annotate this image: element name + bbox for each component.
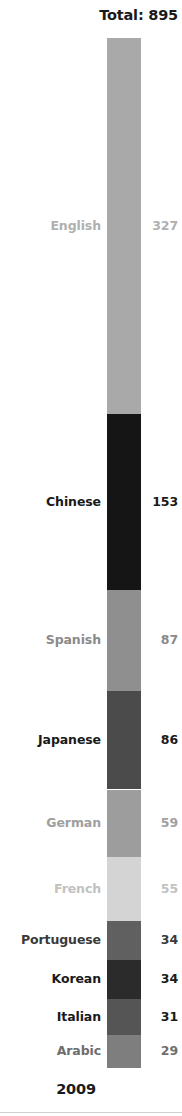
bar-segment	[107, 691, 141, 790]
chart-year-label: 2009	[0, 1081, 152, 1097]
segment-label: Spanish	[0, 634, 101, 647]
segment-value: 153	[145, 496, 178, 509]
bar-stack	[107, 38, 141, 1068]
bar-segment	[107, 414, 141, 590]
bar-segment	[107, 960, 141, 999]
chart-total-label: Total: 895	[0, 7, 178, 23]
segment-label: Portuguese	[0, 934, 101, 947]
segment-value: 29	[145, 1045, 178, 1058]
segment-value: 31	[145, 1011, 178, 1024]
bar-segment	[107, 790, 141, 858]
segment-value: 34	[145, 973, 178, 986]
bottom-divider	[0, 1112, 182, 1113]
segment-label: Korean	[0, 973, 101, 986]
segment-label: English	[0, 220, 101, 233]
bar-segment	[107, 857, 141, 920]
stacked-bar-chart: Total: 895 English327Chinese153Spanish87…	[0, 0, 182, 1116]
segment-label: Chinese	[0, 496, 101, 509]
bar-segment	[107, 999, 141, 1035]
segment-value: 59	[145, 817, 178, 830]
segment-label: Arabic	[0, 1045, 101, 1058]
bar-segment	[107, 38, 141, 414]
bar-segment	[107, 590, 141, 690]
bar-segment	[107, 1035, 141, 1068]
segment-label: Japanese	[0, 734, 101, 747]
segment-value: 327	[145, 220, 178, 233]
segment-label: German	[0, 817, 101, 830]
segment-value: 34	[145, 934, 178, 947]
segment-value: 55	[145, 883, 178, 896]
segment-value: 87	[145, 634, 178, 647]
segment-label: French	[0, 883, 101, 896]
segment-label: Italian	[0, 1011, 101, 1024]
segment-value: 86	[145, 734, 178, 747]
bar-segment	[107, 921, 141, 960]
